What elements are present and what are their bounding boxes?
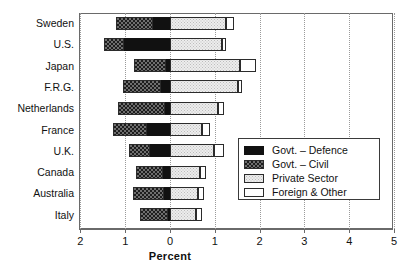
bar-segment-govt-civil bbox=[140, 208, 168, 221]
bar-segment-govt-defence bbox=[124, 38, 170, 51]
x-axis-tick bbox=[260, 229, 261, 233]
bar-segment-govt-defence bbox=[161, 80, 170, 93]
bar-row bbox=[0, 59, 406, 72]
legend: Govt. – DefenceGovt. – CivilPrivate Sect… bbox=[238, 138, 380, 200]
bar-segment-govt-civil bbox=[118, 102, 165, 115]
bar-segment-govt-defence bbox=[163, 166, 170, 179]
x-axis-tick bbox=[80, 229, 81, 233]
bar-segment-foreign-and-other bbox=[240, 59, 256, 72]
bar-segment-private-sector bbox=[170, 102, 218, 115]
x-axis-title-text: Percent bbox=[149, 250, 191, 262]
bar-segment-govt-defence bbox=[150, 144, 170, 157]
bar-segment-foreign-and-other bbox=[202, 123, 210, 136]
bar-row bbox=[0, 17, 406, 30]
legend-label-foreign: Foreign & Other bbox=[272, 187, 347, 198]
bar-segment-govt-defence bbox=[147, 123, 170, 136]
x-axis-tick bbox=[215, 229, 216, 233]
bar-row bbox=[0, 102, 406, 115]
legend-swatch-private bbox=[244, 174, 264, 183]
bar-segment-govt-civil bbox=[104, 38, 124, 51]
x-axis-tick bbox=[170, 229, 171, 233]
x-axis-tick bbox=[125, 229, 126, 233]
bar-row bbox=[0, 80, 406, 93]
bar-segment-private-sector bbox=[170, 80, 238, 93]
legend-swatch-defence bbox=[244, 146, 264, 155]
bar-segment-govt-civil bbox=[134, 59, 166, 72]
bar-segment-govt-civil bbox=[113, 123, 147, 136]
legend-item-private: Private Sector bbox=[244, 171, 374, 185]
x-axis-tick-label: 3 bbox=[292, 235, 316, 247]
bar-segment-foreign-and-other bbox=[222, 38, 226, 51]
bar-segment-private-sector bbox=[170, 17, 226, 30]
bar-segment-govt-civil bbox=[133, 187, 164, 200]
bar-row bbox=[0, 123, 406, 136]
bar-segment-private-sector bbox=[170, 166, 200, 179]
bar-segment-govt-defence bbox=[153, 17, 170, 30]
x-axis-tick-label: 5 bbox=[382, 235, 406, 247]
x-axis-title: Percent bbox=[0, 250, 406, 262]
legend-swatch-civil bbox=[244, 160, 264, 169]
bar-segment-govt-civil bbox=[116, 17, 153, 30]
bar-row bbox=[0, 208, 406, 221]
x-axis-tick bbox=[304, 229, 305, 233]
bar-row bbox=[0, 38, 406, 51]
legend-swatch-foreign bbox=[244, 188, 264, 197]
legend-label-defence: Govt. – Defence bbox=[272, 145, 348, 156]
bar-segment-foreign-and-other bbox=[214, 144, 224, 157]
bar-segment-govt-civil bbox=[123, 80, 161, 93]
x-axis-tick bbox=[394, 229, 395, 233]
bar-segment-foreign-and-other bbox=[218, 102, 224, 115]
bar-segment-private-sector bbox=[170, 59, 240, 72]
bar-segment-foreign-and-other bbox=[196, 208, 202, 221]
legend-item-defence: Govt. – Defence bbox=[244, 143, 374, 157]
legend-label-private: Private Sector bbox=[272, 173, 338, 184]
bar-segment-private-sector bbox=[170, 187, 198, 200]
legend-label-civil: Govt. – Civil bbox=[272, 159, 329, 170]
x-axis-tick-label: 1 bbox=[113, 235, 137, 247]
bar-segment-private-sector bbox=[170, 123, 202, 136]
bar-segment-foreign-and-other bbox=[226, 17, 234, 30]
x-axis-tick bbox=[349, 229, 350, 233]
x-axis-tick-label: 2 bbox=[68, 235, 92, 247]
bar-segment-private-sector bbox=[170, 144, 214, 157]
bar-segment-private-sector bbox=[170, 208, 196, 221]
x-axis-tick-label: 0 bbox=[158, 235, 182, 247]
x-axis-tick-label: 1 bbox=[203, 235, 227, 247]
bar-segment-private-sector bbox=[170, 38, 222, 51]
x-axis-tick-label: 4 bbox=[337, 235, 361, 247]
bar-segment-foreign-and-other bbox=[198, 187, 204, 200]
bar-segment-govt-civil bbox=[129, 144, 150, 157]
legend-item-foreign: Foreign & Other bbox=[244, 185, 374, 199]
x-axis-tick-label: 2 bbox=[248, 235, 272, 247]
chart-root: SwedenU.S.JapanF.R.G.NetherlandsFranceU.… bbox=[0, 0, 406, 272]
legend-item-civil: Govt. – Civil bbox=[244, 157, 374, 171]
bar-segment-govt-civil bbox=[136, 166, 163, 179]
bar-segment-foreign-and-other bbox=[200, 166, 206, 179]
bar-segment-foreign-and-other bbox=[238, 80, 242, 93]
